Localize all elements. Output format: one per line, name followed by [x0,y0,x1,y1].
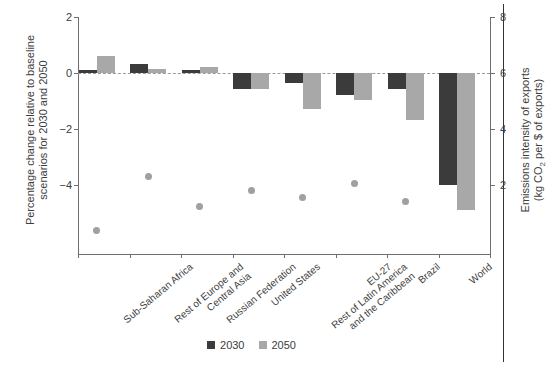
plot-area [78,17,490,254]
x-axis-tick-1 [130,254,131,258]
bar-2030-0 [79,70,97,74]
x-axis-tick-2 [181,254,182,258]
bar-2050-4 [303,73,321,108]
scatter-point-4 [299,194,306,201]
bar-2030-5 [336,73,354,94]
legend-item-2050[interactable]: 2050 [259,339,296,351]
bar-2030-6 [388,73,406,89]
x-axis-tick-4 [284,254,285,258]
bar-2050-7 [457,73,475,210]
bar-2050-6 [406,73,424,120]
scatter-point-0 [93,227,100,234]
bar-2030-3 [233,73,251,89]
x-axis-tick-0 [78,254,79,258]
bar-2030-1 [130,64,148,73]
x-axis-category-label-7: World [467,261,495,287]
y-axis-right-title: Emissions intensity of exports (kg CO2 p… [519,35,549,245]
bar-2050-1 [148,69,166,74]
scatter-point-5 [351,180,358,187]
bar-2030-7 [439,73,457,184]
bar-2030-4 [285,73,303,83]
bar-2050-5 [354,73,372,100]
x-axis-tick-3 [233,254,234,258]
y-axis-right-tick-6 [491,73,495,74]
chart-legend: 20302050 [0,339,503,351]
x-axis-category-label-line: Brazil [416,261,443,286]
scatter-point-1 [145,173,152,180]
y-axis-right-title-line1: Emissions intensity of exports [519,68,531,213]
x-axis-tick-8 [490,254,491,258]
legend-swatch-icon-2050 [259,341,267,349]
legend-swatch-icon-2030 [207,341,215,349]
bar-2050-0 [97,56,115,73]
scatter-point-3 [248,187,255,194]
x-axis-tick-5 [336,254,337,258]
bar-2050-3 [251,73,269,89]
legend-label-2030: 2030 [220,339,244,351]
chart-figure: 2 0 −2 −4 8 6 4 2 Percentage change rela… [0,0,553,369]
y-axis-right-title-line2: (kg CO2 per $ of exports) [532,79,544,201]
x-axis-tick-7 [439,254,440,258]
y-axis-left-title: Percentage change relative to baseline s… [24,10,50,250]
y-axis-right-tick-2 [491,185,495,186]
legend-item-2030[interactable]: 2030 [207,339,244,351]
y-axis-right-line [490,17,491,255]
x-axis-tick-6 [387,254,388,258]
bar-2030-2 [182,70,200,73]
y-axis-left-title-line1: Percentage change relative to baseline [24,35,36,225]
x-axis-category-label-6: Brazil [416,261,443,286]
x-axis-category-label-line: World [467,261,495,287]
y-axis-left-title-line2: scenarios for 2030 and 2050 [37,10,50,250]
y-axis-right-tick-8 [491,17,495,18]
scatter-point-2 [196,203,203,210]
y-axis-right-label-8: 8 [500,12,530,23]
bar-2050-2 [200,67,218,73]
legend-label-2050: 2050 [272,339,296,351]
scatter-point-6 [402,198,409,205]
y-axis-right-tick-4 [491,129,495,130]
